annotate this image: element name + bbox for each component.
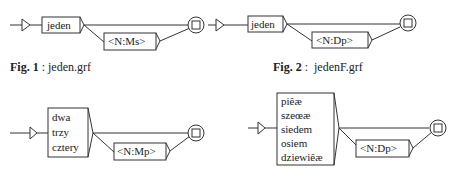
caption-file: jeden.grf (48, 60, 91, 74)
caption-label: Fig. 2 (273, 60, 302, 74)
caption-sep: : (39, 60, 48, 74)
box-n-dp-label: <N:Dp> (316, 34, 353, 46)
graph-fig4 (248, 93, 446, 165)
graph-fig2 (208, 15, 416, 48)
caption-label: Fig. 1 (10, 60, 39, 74)
initial-state-icon (22, 19, 30, 31)
caption-fig1: Fig. 1 : jeden.grf (10, 60, 91, 75)
box-line: trzy (52, 126, 70, 138)
initial-state-icon (30, 127, 37, 139)
box-line: dziewiêæ (281, 151, 323, 163)
box-line: piêæ (281, 95, 302, 107)
graph-fig1 (10, 17, 204, 50)
box-line: szeœæ (281, 109, 310, 121)
box-line: dwa (52, 111, 70, 123)
box-jeden-label: jeden (250, 18, 275, 30)
box-line: osiem (281, 137, 308, 149)
caption-file: jedenF.grf (314, 60, 363, 74)
caption-fig2: Fig. 2 : jedenF.grf (273, 60, 363, 75)
box-n-mp-label: <N:Mp> (117, 145, 156, 157)
caption-sep: : (302, 60, 314, 74)
graph-fig3 (10, 108, 204, 160)
initial-state-icon (216, 19, 224, 31)
graph-canvas: jeden <N:Ms> jeden <N:Dp> dwa trzy czter… (0, 0, 461, 184)
box-n-ms-label: <N:Ms> (108, 35, 145, 47)
initial-state-icon (258, 122, 265, 134)
box-jeden-label: jeden (46, 19, 71, 31)
box-line: siedem (281, 123, 313, 135)
box-line: cztery (52, 141, 79, 153)
box-n-dp-label: <N:Dp> (360, 142, 397, 154)
